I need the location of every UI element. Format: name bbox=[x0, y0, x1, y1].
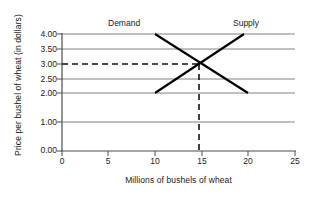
plot-svg bbox=[0, 0, 312, 199]
y-tick-marks bbox=[57, 34, 62, 151]
axis-spines bbox=[61, 33, 296, 151]
supply-demand-chart: Price per bushel of wheat (in dollars) M… bbox=[0, 0, 312, 199]
x-tick-marks bbox=[62, 151, 295, 156]
